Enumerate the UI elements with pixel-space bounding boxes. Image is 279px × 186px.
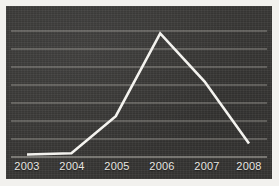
- plot-svg: [6, 6, 272, 179]
- data-series-line: [27, 33, 249, 154]
- line-chart-figure: 2003 2004 2005 2006 2007 2008: [0, 0, 279, 186]
- plot-area-panel: [6, 6, 272, 179]
- horizontal-gridlines: [11, 31, 267, 139]
- data-series-group: [27, 33, 249, 154]
